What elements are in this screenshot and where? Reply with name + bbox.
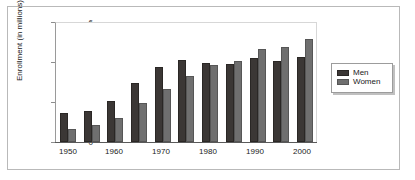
bar-women-2000 bbox=[305, 39, 313, 142]
legend-item-women: Women bbox=[337, 78, 388, 86]
bar-men-1990 bbox=[250, 58, 258, 142]
bar-women-1995 bbox=[281, 47, 289, 142]
bar-men-1985 bbox=[226, 64, 234, 142]
bar-men-1965 bbox=[131, 83, 139, 142]
bar-women-1975 bbox=[186, 76, 194, 142]
bar-chart: Enrollment (in millions) 6 4 2 0 1950 19… bbox=[0, 0, 415, 180]
bar-women-1950 bbox=[68, 129, 76, 142]
x-tick-label-1970: 1970 bbox=[141, 148, 181, 156]
x-axis-line bbox=[55, 142, 317, 143]
bar-women-1970 bbox=[163, 89, 171, 142]
bar-group-1975 bbox=[178, 22, 194, 142]
bar-men-2000 bbox=[297, 57, 305, 142]
bar-group-1990 bbox=[250, 22, 266, 142]
bar-group-1995 bbox=[273, 22, 289, 142]
bar-women-1965 bbox=[139, 103, 147, 142]
bar-group-1955 bbox=[84, 22, 100, 142]
legend-item-men: Men bbox=[337, 69, 388, 77]
bar-group-1985 bbox=[226, 22, 242, 142]
chart-legend: Men Women bbox=[331, 63, 393, 93]
legend-label-women: Women bbox=[353, 78, 380, 86]
x-tick-label-1950: 1950 bbox=[48, 148, 88, 156]
legend-swatch-men-icon bbox=[337, 70, 349, 76]
bar-women-1960 bbox=[115, 118, 123, 142]
bar-women-1985 bbox=[234, 61, 242, 142]
bar-women-1980 bbox=[210, 65, 218, 142]
bar-men-1960 bbox=[107, 101, 115, 142]
bar-men-1975 bbox=[178, 60, 186, 142]
bar-men-1980 bbox=[202, 63, 210, 142]
x-tick-label-1990: 1990 bbox=[235, 148, 275, 156]
bar-men-1955 bbox=[84, 111, 92, 142]
bar-men-1995 bbox=[273, 61, 281, 142]
bar-group-1960 bbox=[107, 22, 123, 142]
legend-label-men: Men bbox=[353, 69, 369, 77]
x-tick-label-1980: 1980 bbox=[188, 148, 228, 156]
legend-swatch-women-icon bbox=[337, 79, 349, 85]
bar-group-1965 bbox=[131, 22, 147, 142]
bar-group-1980 bbox=[202, 22, 218, 142]
bar-group-1950 bbox=[60, 22, 76, 142]
bar-men-1950 bbox=[60, 113, 68, 142]
x-tick-label-2000: 2000 bbox=[282, 148, 322, 156]
bar-series-container bbox=[56, 22, 317, 142]
bar-women-1990 bbox=[258, 49, 266, 142]
bar-group-1970 bbox=[155, 22, 171, 142]
bar-men-1970 bbox=[155, 67, 163, 142]
y-axis-label: Enrollment (in millions) bbox=[15, 0, 24, 96]
bar-women-1955 bbox=[92, 125, 100, 142]
bar-group-2000 bbox=[297, 22, 313, 142]
x-tick-label-1960: 1960 bbox=[94, 148, 134, 156]
